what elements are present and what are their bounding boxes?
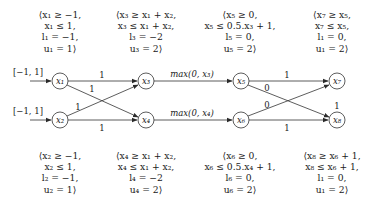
network-diagram: x₁ x₂ x₃ x₄ x₅ x₆ x₇ x₈ [−1, 1] [−1, 1] … (0, 0, 376, 208)
edge-label-x1-x3: 1 (99, 70, 104, 80)
node-label-x4: x₄ (142, 115, 151, 125)
edge-label-x6-x8: 1 (284, 123, 289, 133)
input-range-x2: [−1, 1] (13, 106, 43, 116)
node-label-x6: x₆ (237, 115, 246, 125)
edge-label-x5-x8: 0 (264, 83, 269, 93)
edge-label-x3-x5: max(0, x₃) (170, 69, 214, 79)
input-range-x1: [−1, 1] (13, 67, 43, 77)
edge-label-x4-x6: max(0, x₄) (170, 108, 214, 118)
node-label-x2: x₂ (56, 115, 65, 125)
edge-label-x2-x4: 1 (99, 123, 104, 133)
node-label-x5: x₅ (237, 76, 246, 86)
bias-label-x8: 1 (334, 101, 339, 111)
edge-label-x2-x3: 1 (75, 102, 80, 112)
node-label-x7: x₇ (333, 76, 342, 86)
edge-label-x6-x7: 0 (264, 100, 269, 110)
edge-label-x1-x4: 1 (89, 84, 94, 94)
node-label-x8: x₈ (333, 115, 342, 125)
node-label-x1: x₁ (56, 76, 64, 86)
node-label-x3: x₃ (142, 76, 151, 86)
edge-label-x5-x7: 1 (284, 70, 289, 80)
